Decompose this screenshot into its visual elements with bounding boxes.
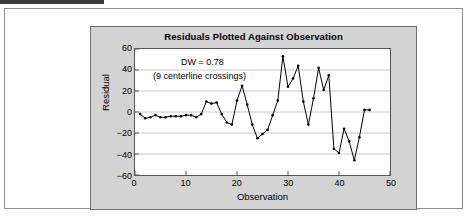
data-point [353,159,356,162]
chart-title: Residuals Plotted Against Observation [91,31,416,42]
data-point [277,99,280,102]
data-point [338,152,341,155]
y-tick-label: 60 [110,43,132,53]
data-point [282,55,285,58]
chart-panel: Residuals Plotted Against Observation Re… [90,26,417,210]
data-point [256,137,259,140]
data-point [287,86,290,89]
data-point [210,102,213,105]
data-point [169,115,172,118]
data-point [164,116,167,119]
data-point [343,128,346,131]
data-point [175,115,178,118]
y-tick-marks [135,49,139,175]
figure-outer-frame: Residuals Plotted Against Observation Re… [4,8,463,209]
annotation-durbin-watson: DW = 0.78 [181,57,224,67]
x-tick-label: 30 [283,178,293,188]
data-point [220,113,223,116]
x-tick-label: 20 [232,178,242,188]
data-point [292,77,295,80]
figure-root: Residuals Plotted Against Observation Re… [0,0,472,217]
data-point [246,103,249,106]
data-point [363,109,366,112]
data-point [205,100,208,103]
plot-area: DW = 0.78 (9 centerline crossings) [134,48,391,176]
data-point [215,101,218,104]
x-tick-label: 40 [335,178,345,188]
y-axis-tick-labels: 60 40 20 0 −20 −40 −60 [107,48,132,176]
data-point [368,109,371,112]
data-point [302,100,305,103]
data-point [251,123,254,126]
x-axis-label: Observation [134,191,391,202]
residual-line-chart [135,49,390,175]
y-tick-label: 40 [110,64,132,74]
data-point [271,114,274,117]
data-point [307,123,310,126]
data-point [322,89,325,92]
data-point [200,113,203,116]
data-point [328,74,331,77]
data-point [195,116,198,119]
data-point [185,114,188,117]
data-point [231,123,234,126]
data-point [180,115,183,118]
top-rule-decoration [0,0,104,4]
annotation-crossings: (9 centerline crossings) [153,71,246,81]
data-point [358,136,361,139]
data-point [333,147,336,150]
y-tick-label: −60 [110,171,132,181]
x-tick-marks [135,171,390,175]
x-tick-label: 50 [386,178,396,188]
data-point [226,121,229,124]
data-point [159,116,162,119]
data-point [312,97,315,100]
y-tick-label: −40 [110,150,132,160]
data-point [236,99,239,102]
data-point [144,117,147,120]
data-point [297,65,300,68]
data-point [241,84,244,87]
y-tick-label: 20 [110,86,132,96]
x-tick-label: 10 [180,178,190,188]
data-point [266,129,269,132]
data-point [261,133,264,136]
data-point [139,113,142,116]
data-point [317,67,320,70]
data-point [149,116,152,119]
x-axis-tick-labels: 0 10 20 30 40 50 [134,178,391,192]
y-tick-label: −20 [110,128,132,138]
y-tick-label: 0 [110,107,132,117]
gridlines [135,70,390,154]
x-tick-label: 0 [131,178,136,188]
data-point [348,140,351,143]
data-point [154,114,157,117]
data-point [190,114,193,117]
